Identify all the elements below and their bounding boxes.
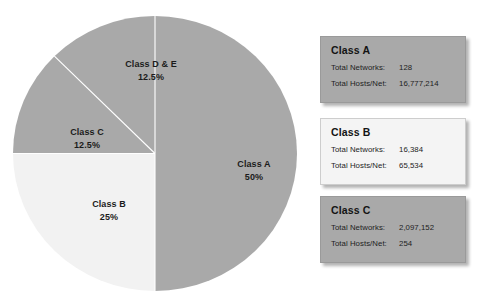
row-value: 65,534 <box>399 161 456 170</box>
row-label: Total Networks: <box>331 145 399 154</box>
pie-label-class-a: Class A 50% <box>195 158 313 183</box>
info-box-class-a-row-total-networks: Total Networks: 128 <box>331 63 456 72</box>
info-box-class-c: Class C Total Networks: 2,097,152 Total … <box>320 196 466 263</box>
row-label: Total Hosts/Net: <box>331 239 399 248</box>
row-label: Total Networks: <box>331 223 399 232</box>
row-label: Total Hosts/Net: <box>331 79 399 88</box>
pie-label-class-b-percent: 25% <box>57 211 161 224</box>
row-label: Total Networks: <box>331 63 399 72</box>
info-box-class-a-row-total-hosts: Total Hosts/Net: 16,777,214 <box>331 79 456 88</box>
pie-label-class-d-e-percent: 12.5% <box>89 71 213 84</box>
row-value: 128 <box>399 63 456 72</box>
info-box-class-a-title: Class A <box>331 44 456 56</box>
info-box-class-a: Class A Total Networks: 128 Total Hosts/… <box>320 36 466 103</box>
row-value: 2,097,152 <box>399 223 456 232</box>
pie-label-class-d-e-name: Class D & E <box>125 59 177 69</box>
info-box-class-b-row-total-networks: Total Networks: 16,384 <box>331 145 456 154</box>
pie-label-class-b: Class B 25% <box>57 198 161 223</box>
pie-label-class-b-name: Class B <box>92 199 126 209</box>
pie-label-class-c-percent: 12.5% <box>35 139 139 152</box>
row-label: Total Hosts/Net: <box>331 161 399 170</box>
info-box-class-c-row-total-networks: Total Networks: 2,097,152 <box>331 223 456 232</box>
info-box-class-c-title: Class C <box>331 204 456 216</box>
pie-label-class-c-name: Class C <box>70 127 104 137</box>
info-box-class-b-row-total-hosts: Total Hosts/Net: 65,534 <box>331 161 456 170</box>
row-value: 16,384 <box>399 145 456 154</box>
pie-label-class-a-percent: 50% <box>195 171 313 184</box>
pie-label-class-c: Class C 12.5% <box>35 126 139 151</box>
pie-label-class-a-name: Class A <box>237 159 270 169</box>
info-box-class-b: Class B Total Networks: 16,384 Total Hos… <box>320 118 466 185</box>
class-distribution-pie-chart: Class D & E 12.5% Class C 12.5% Class B … <box>13 16 297 291</box>
row-value: 254 <box>399 239 456 248</box>
info-box-class-c-row-total-hosts: Total Hosts/Net: 254 <box>331 239 456 248</box>
info-box-class-b-title: Class B <box>331 126 456 138</box>
row-value: 16,777,214 <box>399 79 456 88</box>
pie-label-class-d-e: Class D & E 12.5% <box>89 58 213 83</box>
